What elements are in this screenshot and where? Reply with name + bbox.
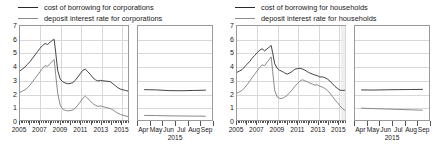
inset-year-label: 2015 xyxy=(168,134,183,142)
x-tick xyxy=(128,121,129,123)
y-tick-label: 3 xyxy=(13,76,17,83)
x-tick xyxy=(137,121,138,126)
x-tick xyxy=(354,121,355,126)
legend-entry: cost of borrowing for households xyxy=(235,2,431,12)
x-tick-label: Aug xyxy=(405,126,417,134)
x-tick xyxy=(162,121,163,126)
x-tick xyxy=(367,121,368,126)
x-tick-label: Aug xyxy=(188,126,200,134)
x-tick-label: May xyxy=(367,126,379,134)
legend-households: cost of borrowing for households deposit… xyxy=(235,2,431,24)
inset-axes xyxy=(137,25,213,121)
x-tick-label: Sep xyxy=(201,126,213,134)
series-line xyxy=(237,45,345,90)
x-tick-label: Jun xyxy=(163,126,174,134)
x-tick xyxy=(150,121,151,126)
panel-households: cost of borrowing for households deposit… xyxy=(217,0,434,149)
inset-x-axis-labels: AprMayJunJulAugSep xyxy=(217,124,434,134)
main-axes xyxy=(236,25,346,121)
y-tick-label: 6 xyxy=(230,35,234,42)
y-tick-label: 2 xyxy=(13,90,17,97)
legend-line-icon xyxy=(18,7,38,8)
series-layer xyxy=(138,26,212,120)
x-tick xyxy=(188,121,189,126)
series-line xyxy=(237,57,345,111)
x-tick xyxy=(417,121,418,126)
plot-area: 01234567 200520072009201120132015 AprMay… xyxy=(0,25,217,149)
x-tick-label: Apr xyxy=(138,126,148,134)
series-layer xyxy=(237,26,345,120)
legend-line-icon xyxy=(235,7,255,8)
series-line xyxy=(144,90,206,91)
x-tick-label: Apr xyxy=(355,126,365,134)
y-tick-label: 1 xyxy=(230,104,234,111)
figure-root: cost of borrowing for corporations depos… xyxy=(0,0,434,149)
x-tick xyxy=(213,121,214,126)
y-axis-labels: 01234567 xyxy=(7,25,17,121)
x-tick-marks xyxy=(137,121,213,125)
x-tick xyxy=(392,121,393,126)
legend-label: cost of borrowing for households xyxy=(261,3,368,12)
series-layer xyxy=(20,26,128,120)
series-line xyxy=(144,115,206,116)
legend-corporations: cost of borrowing for corporations depos… xyxy=(18,2,214,24)
x-tick-label: Jun xyxy=(380,126,391,134)
y-tick-label: 7 xyxy=(13,22,17,29)
x-tick xyxy=(430,121,431,126)
series-line xyxy=(361,108,423,110)
y-tick-label: 7 xyxy=(230,22,234,29)
legend-label: cost of borrowing for corporations xyxy=(44,3,154,12)
y-tick-label: 6 xyxy=(13,35,17,42)
y-tick-label: 5 xyxy=(13,49,17,56)
legend-label: deposit interest rate for households xyxy=(261,14,376,23)
y-tick-label: 4 xyxy=(13,63,17,70)
legend-label: deposit interest rate for corporations xyxy=(44,14,162,23)
y-tick-label: 1 xyxy=(13,104,17,111)
panel-corporations: cost of borrowing for corporations depos… xyxy=(0,0,217,149)
series-line xyxy=(20,60,128,117)
inset-axes xyxy=(354,25,430,121)
y-tick-label: 2 xyxy=(230,90,234,97)
legend-line-icon xyxy=(18,18,38,19)
inset-year-label: 2015 xyxy=(385,134,400,142)
legend-entry: deposit interest rate for households xyxy=(235,13,431,23)
x-tick-marks xyxy=(354,121,430,125)
plot-area: 01234567 200520072009201120132015 AprMay… xyxy=(217,25,434,149)
x-tick-label: Jul xyxy=(394,126,402,134)
legend-line-icon xyxy=(235,18,255,19)
x-tick-label: Jul xyxy=(177,126,185,134)
x-tick xyxy=(379,121,380,126)
series-line xyxy=(361,89,423,90)
y-axis-labels: 01234567 xyxy=(224,25,234,121)
main-axes xyxy=(19,25,129,121)
x-tick xyxy=(200,121,201,126)
y-tick-label: 5 xyxy=(230,49,234,56)
y-tick-label: 4 xyxy=(230,63,234,70)
legend-entry: deposit interest rate for corporations xyxy=(18,13,214,23)
x-tick-label: Sep xyxy=(418,126,430,134)
x-tick-label: May xyxy=(150,126,162,134)
y-tick-label: 3 xyxy=(230,76,234,83)
x-tick xyxy=(405,121,406,126)
legend-entry: cost of borrowing for corporations xyxy=(18,2,214,12)
series-layer xyxy=(355,26,429,120)
inset-x-axis-labels: AprMayJunJulAugSep xyxy=(0,124,217,134)
x-tick xyxy=(175,121,176,126)
x-tick xyxy=(345,121,346,123)
series-line xyxy=(20,39,128,91)
